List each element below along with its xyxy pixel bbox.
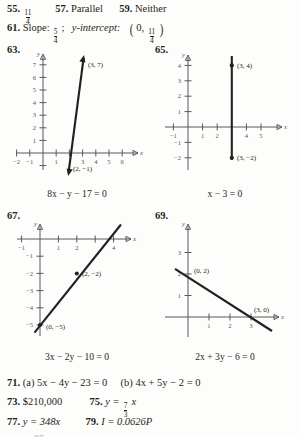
svg-text:−5: −5 — [26, 321, 34, 328]
graph-panel-63: 63. x y — [7, 44, 147, 212]
svg-text:1: 1 — [33, 137, 36, 144]
svg-text:3: 3 — [33, 111, 37, 118]
svg-text:6: 6 — [33, 74, 37, 81]
plotted-points-65: (3, 4) (3, −2) — [230, 62, 257, 163]
svg-text:3: 3 — [178, 77, 182, 84]
fraction-numerator: 11 — [147, 28, 156, 36]
point-dot-2-neg2 — [75, 271, 79, 275]
coordinate-plane-67: x y −1 1 2 4 — [7, 218, 147, 340]
svg-text:1: 1 — [57, 244, 60, 251]
svg-text:3: 3 — [81, 158, 85, 165]
plotted-points-69: (0, 2) (3, 0) — [194, 267, 270, 314]
svg-text:−2: −2 — [13, 158, 20, 165]
svg-text:4: 4 — [33, 99, 37, 106]
svg-text:1: 1 — [178, 292, 181, 299]
y-intercept-label: y-intercept: — [72, 22, 121, 33]
svg-text:3: 3 — [178, 249, 182, 256]
axis-x-63: x — [16, 149, 143, 156]
svg-text:−1: −1 — [18, 244, 25, 251]
svg-text:2: 2 — [178, 92, 181, 99]
svg-text:4: 4 — [94, 158, 98, 165]
axis-x-65: x — [165, 123, 287, 130]
answer-number-57: 57. — [55, 3, 68, 14]
axis-y-65: y — [181, 51, 191, 170]
svg-text:−1: −1 — [26, 252, 33, 259]
x-tick-labels-65: −1 1 2 4 5 — [170, 132, 263, 139]
point-label-3-4: (3, 4) — [237, 62, 253, 70]
answer-value-73: $210,000 — [23, 396, 62, 407]
svg-text:7: 7 — [33, 61, 37, 68]
point-label-3-7: (3, 7) — [88, 61, 104, 69]
answer-number-77: 77. — [7, 416, 20, 427]
answer-row-71: 71. (a) 5x − 4y − 23 = 0 (b) 4x + 5y − 2… — [7, 377, 200, 389]
svg-text:−3: −3 — [26, 287, 34, 294]
y-axis-label: y — [36, 50, 41, 57]
point-label-3-neg2: (3, −2) — [237, 154, 257, 162]
graph-69-equation: 2x + 3y − 6 = 0 — [155, 351, 295, 362]
svg-text:−1: −1 — [174, 139, 181, 146]
answer-value-77: y = 348x — [23, 416, 60, 427]
graph-panel-69: 69. x y 1 — [155, 210, 295, 375]
svg-text:2: 2 — [75, 244, 78, 251]
fraction-numerator: 5 — [53, 28, 59, 36]
svg-text:2: 2 — [33, 124, 36, 131]
line-arrow-down-icon — [67, 169, 73, 176]
answer-number-61: 61. — [7, 22, 20, 33]
svg-text:−2: −2 — [174, 154, 181, 161]
answer-75-suffix: x — [131, 396, 136, 407]
fraction-numerator: 11 — [23, 9, 32, 17]
svg-text:4: 4 — [245, 132, 249, 139]
answer-61-separator: ; — [62, 22, 65, 33]
graph-63-equation: 8x − y − 17 = 0 — [7, 188, 147, 199]
coordinate-plane-65: x y −1 1 2 4 — [155, 50, 295, 175]
y-tick-labels-65: 1 2 3 4 −1 −2 — [174, 62, 182, 161]
svg-text:6: 6 — [121, 158, 125, 165]
answer-number-55: 55. — [7, 3, 20, 14]
x-axis-label: x — [280, 313, 284, 320]
point-label-2-neg2: (2, −2) — [82, 270, 102, 278]
fraction-denominator: 4 — [54, 36, 58, 45]
svg-text:2: 2 — [216, 132, 219, 139]
plotted-points-63: (3, 7) (2, −1) — [73, 61, 104, 173]
graph-panel-67: 67. x y — [7, 210, 147, 375]
point-label-0-2: (0, 2) — [194, 267, 210, 275]
answer-71-part-a: 5x − 4y − 23 = 0 — [37, 377, 107, 388]
answer-number-75: 75. — [89, 396, 102, 407]
svg-text:−1: −1 — [26, 158, 33, 165]
y-axis-label: y — [33, 220, 38, 227]
graph-panel-65: 65. x y — [155, 44, 295, 212]
y-tick-labels-67: −1 −2 −3 −4 −5 — [26, 252, 34, 328]
x-axis-label: x — [132, 235, 136, 242]
fraction-numerator: 7 — [123, 402, 129, 410]
graph-69-plot: x y 1 2 3 — [155, 218, 295, 340]
point-dot-0-neg5 — [38, 323, 42, 327]
answer-71-part-b: 4x + 5y − 2 = 0 — [135, 377, 200, 388]
answer-row-73-75: 73. $210,000 75. y = 7 3 x — [7, 396, 136, 418]
answer-value-59: Neither — [135, 3, 167, 14]
answer-number-73: 73. — [7, 396, 20, 407]
coordinate-plane-69: x y 1 2 3 — [155, 218, 295, 340]
x-tick-labels-69: 1 2 3 — [207, 322, 253, 329]
x-axis-label: x — [283, 123, 287, 130]
svg-text:1: 1 — [207, 322, 210, 329]
y-axis-label: y — [181, 51, 186, 58]
answer-71-part-a-label: (a) — [23, 377, 35, 388]
svg-text:1: 1 — [178, 108, 181, 115]
axis-y-63: y — [36, 50, 46, 170]
answer-row-77-79: 77. y = 348x 79. I = 0.0626P — [7, 416, 152, 428]
slope-fraction: 5 4 — [53, 28, 59, 44]
graph-65-plot: x y −1 1 2 4 — [155, 50, 295, 175]
svg-text:−4: −4 — [26, 304, 34, 311]
y-tick-labels-63: 1 2 3 4 5 6 7 — [33, 61, 37, 144]
slope-label: Slope: — [23, 22, 50, 33]
svg-text:1: 1 — [55, 158, 58, 165]
graph-67-equation: 3x − 2y − 10 = 0 — [7, 351, 147, 362]
line-arrow-up-icon — [79, 55, 85, 62]
axis-y-67: y — [33, 220, 43, 336]
point-dot-3-neg2 — [230, 156, 234, 160]
cut-off-answer-number-85: 85. — [34, 433, 47, 437]
plotted-points-67: (2, −2) (0, −5) — [38, 270, 102, 331]
point-label-3-0: (3, 0) — [254, 306, 270, 314]
intercept-x-value: 0 — [136, 22, 141, 33]
svg-text:1: 1 — [201, 132, 204, 139]
